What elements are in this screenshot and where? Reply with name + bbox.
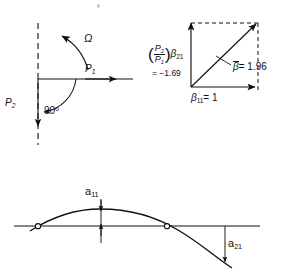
figure-canvas bbox=[0, 0, 285, 276]
beta-21-subscript: 21 bbox=[176, 53, 183, 60]
beta-11-value: = 1 bbox=[203, 92, 217, 103]
ratio-value-label: = −1.69 bbox=[152, 69, 181, 78]
p2-label: P2 bbox=[5, 98, 15, 109]
resultant-beta-bar-vector bbox=[191, 24, 256, 87]
a11-subscript: 11 bbox=[91, 190, 98, 199]
p2-subscript: 2 bbox=[12, 102, 16, 109]
mode-shape-panel bbox=[14, 199, 260, 268]
node-marker-right bbox=[164, 224, 169, 229]
mode-shape-curve bbox=[30, 209, 232, 268]
p1-label: P1 bbox=[85, 64, 95, 75]
a21-subscript: 21 bbox=[234, 242, 242, 251]
beta-bar-label: β= 1.96 bbox=[233, 61, 267, 73]
scan-artifact-speck bbox=[97, 4, 100, 8]
node-marker-left bbox=[35, 224, 40, 229]
a21-label: a21 bbox=[228, 238, 242, 250]
angle-90-label: 90o bbox=[44, 106, 59, 116]
omega-label: Ω bbox=[84, 33, 92, 44]
degree-symbol: o bbox=[55, 105, 59, 112]
p2-over-p1-fraction: P2P1 bbox=[154, 44, 165, 64]
vector-parallelogram-panel bbox=[191, 23, 258, 92]
beta-bar-value: = 1.96 bbox=[239, 61, 267, 72]
ratio-beta21-label: (P2P1)β21 bbox=[148, 44, 183, 64]
figure-root: Ω P1 P2 90o (P2P1)β21 = −1.69 β= 1.96 β1… bbox=[0, 0, 285, 276]
p1-subscript: 1 bbox=[92, 68, 96, 75]
beta-11-label: β11= 1 bbox=[191, 93, 218, 104]
a11-label: a11 bbox=[85, 186, 98, 198]
